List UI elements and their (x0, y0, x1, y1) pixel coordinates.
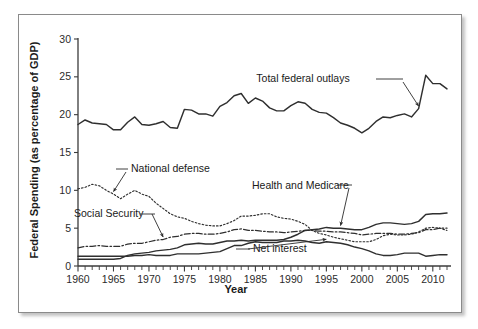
series-annotation-leader-social_security (152, 214, 163, 237)
series-annotation-label-health_and_medicare: Health and Medicare (252, 179, 349, 191)
y-tick-label: 10 (59, 184, 71, 196)
figure-root: 051015202530 196019651970197519801985199… (0, 0, 478, 329)
x-tick-label: 1960 (66, 273, 90, 285)
x-axis-ticks (78, 266, 447, 272)
series-annotation-leader-health_and_medicare (341, 188, 349, 226)
y-tick-label: 30 (59, 33, 71, 45)
y-tick-label: 0 (65, 260, 71, 272)
series-annotation-leader-national_defense (113, 172, 126, 192)
y-tick-label: 15 (59, 146, 71, 158)
series-annotation-leader-total_federal_outlays (403, 82, 419, 106)
series-annotation-label-national_defense: National defense (131, 162, 210, 174)
x-tick-label: 1965 (102, 273, 126, 285)
x-tick-label: 1975 (173, 273, 197, 285)
y-axis-tick-labels: 051015202530 (59, 33, 71, 272)
chart-canvas: 051015202530 196019651970197519801985199… (0, 0, 478, 329)
y-tick-label: 5 (65, 222, 71, 234)
series-annotation-label-social_security: Social Security (74, 207, 144, 219)
y-tick-label: 25 (59, 70, 71, 82)
series-annotation-label-total_federal_outlays: Total federal outlays (256, 72, 349, 84)
y-axis-title: Federal Spending (as percentage of GDP) (28, 41, 40, 258)
x-tick-label: 1990 (279, 273, 303, 285)
x-axis-tick-labels: 1960196519701975198019851990199520002005… (66, 273, 444, 285)
annotation-group: Total federal outlaysNational defenseSoc… (74, 72, 419, 254)
y-tick-label: 20 (59, 108, 71, 120)
x-tick-label: 1995 (315, 273, 339, 285)
x-tick-label: 2000 (350, 273, 374, 285)
x-tick-label: 2010 (421, 273, 445, 285)
x-tick-label: 1970 (137, 273, 161, 285)
series-annotation-label-net_interest: Net interest (253, 242, 307, 254)
x-axis-title: Year (224, 283, 248, 295)
x-tick-label: 2005 (386, 273, 410, 285)
